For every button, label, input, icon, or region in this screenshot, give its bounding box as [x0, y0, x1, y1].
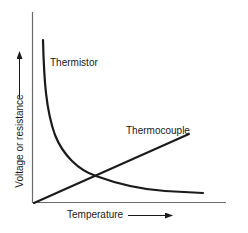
y-axis-label: Voltage or resistance — [15, 89, 25, 193]
thermocouple-label: Thermocouple — [126, 126, 190, 136]
x-axis-label: Temperature — [67, 210, 123, 220]
chart-root: Thermistor Thermocouple Temperature Volt… — [0, 0, 248, 233]
thermistor-label: Thermistor — [50, 58, 98, 68]
thermocouple-line — [34, 134, 189, 203]
chart-canvas — [0, 0, 248, 233]
